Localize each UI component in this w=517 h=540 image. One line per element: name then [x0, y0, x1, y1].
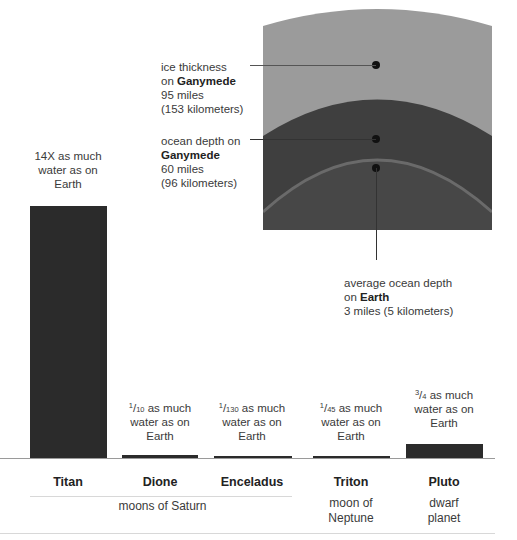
earth-leader-line	[376, 168, 377, 260]
titan-bar	[30, 206, 107, 458]
ice-leader-line	[250, 65, 376, 66]
category-triton: Triton	[306, 475, 396, 489]
category-pluto: Pluto	[399, 475, 489, 489]
dione-value-label: 1/10 as much water as on Earth	[110, 401, 210, 443]
ocean-annotation: ocean depth on Ganymede 60 miles (96 kil…	[161, 134, 240, 190]
ganymede-earth-diagram	[263, 8, 492, 230]
titan-value-label: 14X as much water as on Earth	[18, 149, 118, 191]
ocean-leader-line	[250, 139, 376, 140]
group-label-dwarf: dwarf planet	[399, 496, 489, 526]
enceladus-value-label: 1/130 as much water as on Earth	[202, 401, 302, 443]
category-dione: Dione	[115, 475, 205, 489]
group-label-saturn: moons of Saturn	[100, 499, 225, 514]
triton-value-label: 1/45 as much water as on Earth	[301, 401, 401, 443]
saturn-group-separator	[30, 496, 292, 497]
category-enceladus: Enceladus	[207, 475, 297, 489]
category-titan: Titan	[23, 475, 113, 489]
pluto-value-label: 3/4 as much water as on Earth	[394, 388, 494, 430]
ice-annotation: ice thickness on Ganymede 95 miles (153 …	[161, 60, 243, 116]
layer-diagram-graphic	[263, 8, 492, 230]
chart-baseline	[0, 458, 495, 459]
earth-annotation: average ocean depth on Earth 3 miles (5 …	[344, 276, 453, 318]
group-label-neptune: moon of Neptune	[306, 496, 396, 526]
pluto-bar	[406, 444, 483, 458]
bottom-rule	[0, 533, 495, 534]
